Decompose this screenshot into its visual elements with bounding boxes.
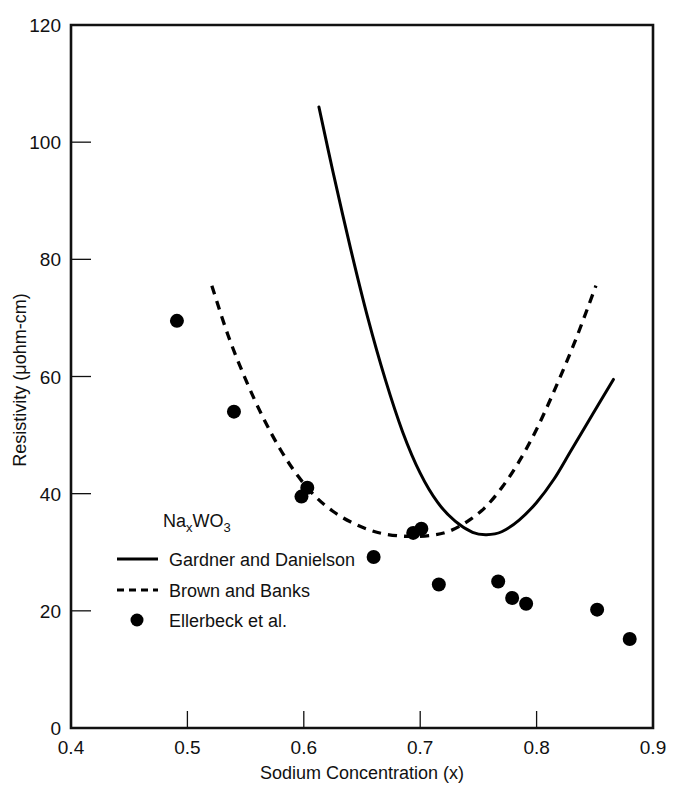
x-axis-title: Sodium Concentration (x) [260,763,464,783]
legend-label-ellerbeck-et-al: Ellerbeck et al. [169,611,287,631]
x-axis-tick-labels: 0.40.50.60.70.80.9 [58,737,666,758]
y-tick-label-80: 80 [40,249,61,270]
legend-label-gardner-and-danielson: Gardner and Danielson [169,550,355,570]
legend-formula: NaxWO3 [163,511,231,535]
x-tick-label-0.4: 0.4 [58,737,85,758]
x-tick-label-0.6: 0.6 [291,737,317,758]
y-tick-label-120: 120 [29,15,61,36]
data-point-12 [623,632,637,646]
x-tick-label-0.8: 0.8 [523,737,549,758]
data-point-8 [491,575,505,589]
plot-frame [71,25,653,728]
figure-container: 0.40.50.60.70.80.9 020406080100120 Sodiu… [0,0,681,793]
legend: NaxWO3 Gardner and Danielson Brown and B… [117,511,355,631]
y-tick-label-60: 60 [40,367,61,388]
data-point-9 [505,591,519,605]
legend-label-brown-and-banks: Brown and Banks [169,581,310,601]
series-line-gardner-and-danielson [319,107,613,535]
y-tick-label-40: 40 [40,484,61,505]
y-axis-title: Resistivity (μohm-cm) [10,293,30,466]
data-point-7 [432,577,446,591]
x-tick-label-0.5: 0.5 [174,737,200,758]
legend-formula-wo: WO [193,511,224,531]
data-point-6 [414,522,428,536]
x-tick-label-0.9: 0.9 [640,737,666,758]
data-point-4 [367,550,381,564]
y-axis-tick-labels: 020406080100120 [29,15,61,739]
y-tick-label-20: 20 [40,601,61,622]
y-axis-ticks [71,142,91,611]
x-axis-ticks [187,711,536,728]
data-point-1 [227,405,241,419]
legend-key-filled-circle-icon [131,614,144,627]
y-tick-label-0: 0 [50,718,61,739]
data-point-3 [300,481,314,495]
x-tick-label-0.7: 0.7 [407,737,433,758]
legend-formula-sub-3: 3 [224,520,231,535]
y-tick-label-100: 100 [29,132,61,153]
data-point-11 [590,603,604,617]
data-point-0 [170,314,184,328]
legend-formula-na: Na [163,511,187,531]
resistivity-vs-sodium-concentration-chart: 0.40.50.60.70.80.9 020406080100120 Sodiu… [0,0,681,793]
data-point-10 [519,597,533,611]
